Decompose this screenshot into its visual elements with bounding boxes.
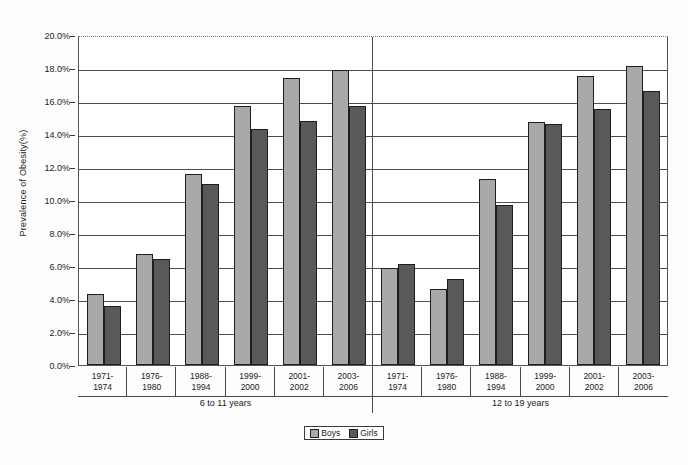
y-axis-tick-mark [70,168,75,169]
bar-group [275,37,324,365]
x-axis-tick-label: 1999-2000 [226,367,275,396]
x-axis-tick-label-line1: 1976- [422,371,471,382]
bar-boys[interactable] [381,268,398,365]
x-axis-tick-label-line2: 2006 [619,382,668,393]
x-axis-tick-label-line2: 1994 [471,382,520,393]
bar-girls[interactable] [447,279,464,365]
bar-group [226,37,275,365]
bar-girls[interactable] [643,91,660,365]
bar-boys[interactable] [430,289,447,365]
x-axis-tick-label: 1976-1980 [127,367,176,396]
bar-boys[interactable] [185,174,202,365]
x-axis-tick-label: 2001-2002 [275,367,324,396]
y-axis-tick-label: 8.0% [49,229,70,239]
y-axis-tick-label: 2.0% [49,328,70,338]
y-axis-tick-label: 6.0% [49,262,70,272]
bar-girls[interactable] [251,129,268,365]
bar-boys[interactable] [283,78,300,365]
bar-girls[interactable] [496,205,513,365]
bar-group [79,37,128,365]
x-axis-tick-label-line2: 1980 [127,382,176,393]
bar-group [373,37,422,365]
legend-swatch-icon [349,429,358,438]
x-axis-tick-label: 1999-2000 [521,367,570,396]
x-axis-tick-label: 1971-1974 [373,367,422,396]
y-axis-tick-mark [70,102,75,103]
bar-boys[interactable] [577,76,594,365]
bar-boys[interactable] [332,70,349,365]
x-axis-tick-label: 1988-1994 [176,367,225,396]
y-axis-tick-label: 16.0% [44,97,70,107]
bar-group [471,37,520,365]
x-axis-tick-label-line2: 2002 [275,382,324,393]
bar-cluster [373,37,667,365]
y-axis-tick-label: 20.0% [44,31,70,41]
x-axis-tick-label: 2003-2006 [324,367,373,396]
x-axis-tick-label: 1976-1980 [422,367,471,396]
y-axis-tick-label: 14.0% [44,130,70,140]
y-axis-tick-mark [70,201,75,202]
bar-group [520,37,569,365]
bar-girls[interactable] [349,106,366,365]
bar-group [324,37,373,365]
x-label-cluster: 1971-19741976-19801988-19941999-20002001… [78,367,373,396]
x-label-cluster: 1971-19741976-19801988-19941999-20002001… [373,367,668,396]
x-axis-tick-label-line1: 2003- [619,371,668,382]
x-axis-tick-label-line1: 2001- [570,371,619,382]
bar-girls[interactable] [153,259,170,365]
bar-group [618,37,667,365]
bar-group [422,37,471,365]
bar-boys[interactable] [136,254,153,365]
legend-item-label: Boys [321,428,340,438]
bar-boys[interactable] [626,66,643,365]
bar-chart: Prevalence of Obesity(%) 20.0%18.0%16.0%… [0,0,688,465]
y-axis-tick-label: 12.0% [44,163,70,173]
age-group-label: 6 to 11 years [78,398,373,416]
x-axis-tick-label-line1: 1976- [127,371,176,382]
bar-boys[interactable] [528,122,545,365]
y-axis-tick-labels: 20.0%18.0%16.0%14.0%12.0%10.0%8.0%6.0%4.… [34,36,74,366]
y-axis-tick-mark [70,300,75,301]
x-axis-tick-label-line1: 1999- [226,371,275,382]
x-axis-tick-label-line2: 2000 [521,382,570,393]
bar-girls[interactable] [545,124,562,365]
x-axis-tick-labels: 1971-19741976-19801988-19941999-20002001… [78,367,668,397]
bar-girls[interactable] [202,184,219,366]
x-axis-tick-label-line1: 1971- [78,371,127,382]
bar-group [177,37,226,365]
bar-girls[interactable] [300,121,317,365]
bar-girls[interactable] [104,306,121,365]
legend-box: BoysGirls [304,426,383,440]
legend-item[interactable]: Girls [349,428,377,438]
x-axis-tick-label-line1: 2001- [275,371,324,382]
y-axis-tick-mark [70,36,75,37]
y-axis-tick-label: 0.0% [49,361,70,371]
x-axis-tick-label-line1: 1988- [471,371,520,382]
x-axis-tick-label: 1988-1994 [471,367,520,396]
y-axis-title-text: Prevalence of Obesity(%) [18,130,28,237]
y-axis-tick-mark [70,267,75,268]
x-axis-tick-label-line2: 1974 [373,382,422,393]
y-axis-tick-label: 4.0% [49,295,70,305]
y-axis-title: Prevalence of Obesity(%) [10,0,36,366]
bar-boys[interactable] [479,179,496,365]
legend-item-label: Girls [360,428,377,438]
bar-boys[interactable] [234,106,251,365]
bars-layer [79,37,667,365]
bar-girls[interactable] [594,109,611,365]
y-axis-tick-mark [70,234,75,235]
x-axis-tick-label-line2: 1994 [176,382,225,393]
bar-boys[interactable] [87,294,104,365]
x-axis-tick-label-line1: 2003- [324,371,373,382]
y-axis-tick-mark [70,135,75,136]
x-axis-tick-label: 1971-1974 [78,367,127,396]
y-axis-tick-label: 10.0% [44,196,70,206]
age-group-label: 12 to 19 years [373,398,668,416]
legend: BoysGirls [0,426,688,440]
y-axis-tick-mark [70,333,75,334]
legend-item[interactable]: Boys [310,428,340,438]
x-axis-tick-label-line2: 2002 [570,382,619,393]
x-axis-tick-label: 2001-2002 [570,367,619,396]
bar-girls[interactable] [398,264,415,365]
x-axis-tick-label-line2: 1980 [422,382,471,393]
